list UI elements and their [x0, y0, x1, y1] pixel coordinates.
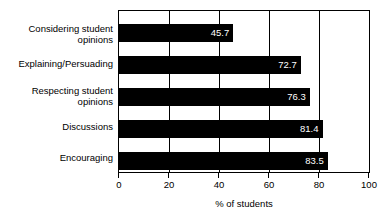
xtick-label-100: 100 — [349, 179, 389, 190]
bar-considering-student-opinions: 45.7 — [119, 24, 233, 42]
xtick-mark-0 — [118, 173, 119, 178]
bar-value-label: 45.7 — [211, 28, 230, 38]
xtick-label-60: 60 — [249, 179, 289, 190]
plot-area: 45.7 72.7 76.3 81.4 83.5 — [118, 10, 370, 173]
xtick-mark-40 — [218, 173, 219, 178]
xtick-mark-100 — [368, 173, 369, 178]
category-label-considering-student-opinions: Considering student opinions — [0, 24, 113, 45]
bar-value-label: 81.4 — [300, 124, 319, 134]
category-label-discussions: Discussions — [0, 122, 113, 133]
xtick-label-20: 20 — [149, 179, 189, 190]
xtick-mark-20 — [168, 173, 169, 178]
bar-value-label: 72.7 — [278, 60, 297, 70]
bar-discussions: 81.4 — [119, 120, 323, 138]
bar-explaining-persuading: 72.7 — [119, 56, 301, 74]
bar-chart: Considering student opinions Explaining/… — [0, 0, 390, 224]
category-label-explaining-persuading: Explaining/Persuading — [0, 59, 113, 70]
bar-value-label: 76.3 — [287, 92, 306, 102]
bar-value-label: 83.5 — [305, 156, 324, 166]
xtick-label-0: 0 — [99, 179, 139, 190]
xtick-mark-80 — [318, 173, 319, 178]
x-axis-title: % of students — [118, 198, 370, 210]
xtick-label-80: 80 — [299, 179, 339, 190]
xtick-mark-60 — [268, 173, 269, 178]
gridline-80 — [319, 11, 320, 172]
category-label-encouraging: Encouraging — [0, 153, 113, 164]
xtick-label-40: 40 — [199, 179, 239, 190]
bar-respecting-student-opinions: 76.3 — [119, 88, 310, 106]
category-axis-labels: Considering student opinions Explaining/… — [0, 10, 113, 173]
bar-encouraging: 83.5 — [119, 152, 328, 170]
category-label-respecting-student-opinions: Respecting student opinions — [0, 86, 113, 107]
